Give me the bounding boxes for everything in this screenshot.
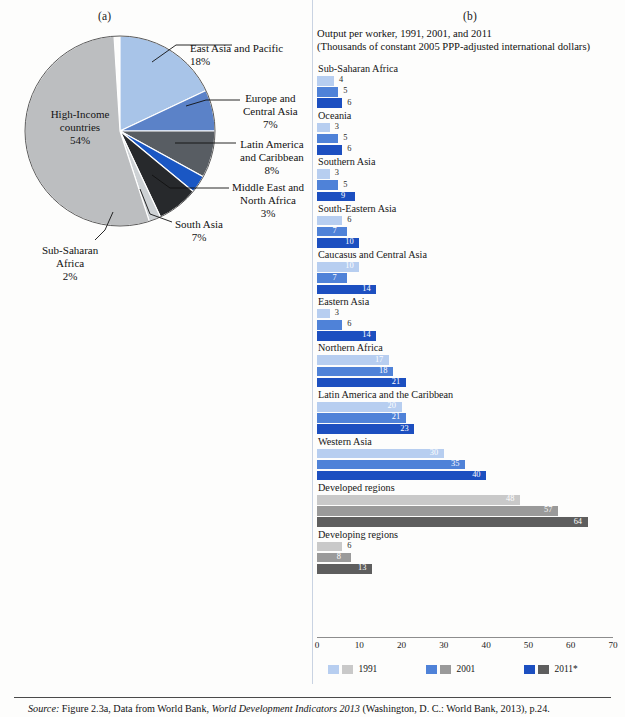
source-pre-italic: Figure 2.3a, Data from World Bank,	[59, 703, 211, 714]
x-axis-tick-label: 40	[482, 640, 491, 650]
bar	[317, 320, 342, 330]
bar-row: 3	[317, 169, 621, 179]
pie-label-eca-pct: 7%	[243, 118, 298, 131]
bar-value-label: 4	[339, 75, 343, 86]
chart-legend: 199120012011*	[320, 663, 620, 677]
pie-label-hic-pct: 54%	[70, 134, 90, 146]
bar	[317, 192, 355, 202]
bar-row: 18	[317, 367, 621, 377]
bar	[317, 517, 588, 527]
bar	[317, 216, 342, 226]
bar-row: 7	[317, 227, 621, 237]
bar-row: 21	[317, 413, 621, 423]
panel-b-letter: (b)	[463, 10, 477, 22]
legend-swatch-blue	[524, 665, 535, 674]
pie-label-mena-pct: 3%	[232, 207, 304, 220]
bar-value-label: 17	[375, 355, 383, 366]
bar-row: 6	[317, 320, 621, 330]
legend-item: 2001	[426, 663, 475, 675]
bar-row: 20	[317, 402, 621, 412]
bar-row: 7	[317, 273, 621, 283]
pie-label-hic-text-2: countries	[60, 121, 100, 133]
bar-group: Western Asia303540	[317, 436, 621, 481]
bar-group-label: Southern Asia	[317, 156, 621, 169]
bar	[317, 471, 486, 481]
bar	[317, 98, 342, 108]
bar-group: Sub-Saharan Africa456	[317, 63, 621, 108]
bar-value-label: 5	[343, 180, 347, 191]
pie-label-east-asia-pacific: East Asia and Pacific 18%	[190, 42, 283, 68]
panel-b-bar-chart: (b) Output per worker, 1991, 2001, and 2…	[312, 0, 625, 688]
bar	[317, 145, 342, 155]
pie-label-ssa-text-1: Sub-Saharan	[42, 244, 98, 256]
bar-row: 40	[317, 471, 621, 481]
bar-value-label: 13	[358, 563, 366, 574]
bar	[317, 134, 338, 144]
bar-value-label: 57	[544, 505, 552, 516]
bar-chart-title: Output per worker, 1991, 2001, and 2011 …	[317, 28, 623, 53]
bar-value-label: 7	[333, 226, 337, 237]
pie-label-eca-text-1: Europe and	[245, 92, 295, 104]
legend-label: 2001	[457, 664, 476, 674]
bar-row: 13	[317, 564, 621, 574]
bar-value-label: 14	[362, 330, 370, 341]
bar-value-label: 3	[335, 308, 339, 319]
bar-value-label: 35	[451, 459, 459, 470]
bar-value-label: 23	[400, 424, 408, 435]
bar-value-label: 10	[345, 261, 353, 272]
bar-row: 23	[317, 424, 621, 434]
pie-label-ssa-text-2: Africa	[56, 257, 84, 269]
pie-label-middle-east-north-africa: Middle East and North Africa 3%	[232, 181, 304, 221]
pie-label-lac-text-1: Latin America	[240, 138, 303, 150]
bar-group-label: Developing regions	[317, 529, 621, 542]
x-axis-tick-label: 10	[355, 640, 364, 650]
pie-label-sa-text: South Asia	[175, 218, 223, 230]
source-divider	[14, 697, 611, 698]
bar	[317, 460, 465, 470]
legend-item: 2011*	[524, 663, 578, 675]
bar-group-label: Developed regions	[317, 482, 621, 495]
bar-chart-title-line1: Output per worker, 1991, 2001, and 2011	[317, 28, 492, 39]
bar-row: 35	[317, 460, 621, 470]
bar-row: 17	[317, 355, 621, 365]
pie-label-south-asia: South Asia 7%	[175, 218, 223, 244]
x-axis-tick-label: 30	[439, 640, 448, 650]
bar-row: 10	[317, 262, 621, 272]
bar	[317, 542, 342, 552]
legend-label: 2011*	[555, 664, 578, 674]
bar-row: 3	[317, 123, 621, 133]
figure-page: (a) East Asia and Pacific 18% Europe and…	[0, 0, 625, 717]
bar-group-label: Eastern Asia	[317, 296, 621, 309]
bar-row: 6	[317, 542, 621, 552]
bar-row: 4	[317, 76, 621, 86]
bar-row: 6	[317, 145, 621, 155]
bar-groups-container: Sub-Saharan Africa456Oceania356Southern …	[317, 63, 621, 575]
panel-a-pie-chart: (a) East Asia and Pacific 18% Europe and…	[0, 0, 310, 300]
bar-value-label: 18	[379, 366, 387, 377]
source-title-italic: World Development Indicators 2013	[212, 703, 360, 714]
bar-row: 10	[317, 238, 621, 248]
bar-group-label: South-Eastern Asia	[317, 203, 621, 216]
source-prefix: Source:	[28, 703, 59, 714]
bar-row: 57	[317, 506, 621, 516]
bar-chart-title-line2: (Thousands of constant 2005 PPP-adjusted…	[317, 41, 623, 54]
bar-group: Caucasus and Central Asia10714	[317, 249, 621, 294]
bar-group: Eastern Asia3614	[317, 296, 621, 341]
bar-row: 5	[317, 87, 621, 97]
bar-group-label: Sub-Saharan Africa	[317, 63, 621, 76]
bar-row: 14	[317, 285, 621, 295]
bar-value-label: 40	[472, 470, 480, 481]
bar-value-label: 7	[333, 273, 337, 284]
legend-swatch-blue	[328, 665, 339, 674]
legend-swatch-blue	[426, 665, 437, 674]
bar-value-label: 21	[392, 377, 400, 388]
bar-group-label: Latin America and the Caribbean	[317, 389, 621, 402]
pie-label-high-income-countries: High-Income countries 54%	[28, 108, 132, 148]
bar-value-label: 5	[343, 133, 347, 144]
bar-group-label: Western Asia	[317, 436, 621, 449]
pie-label-eap-pct: 18%	[190, 55, 283, 68]
pie-label-sa-pct: 7%	[175, 231, 223, 244]
bar-group-label: Oceania	[317, 110, 621, 123]
x-axis-tick-label: 50	[524, 640, 533, 650]
bar-value-label: 21	[392, 412, 400, 423]
